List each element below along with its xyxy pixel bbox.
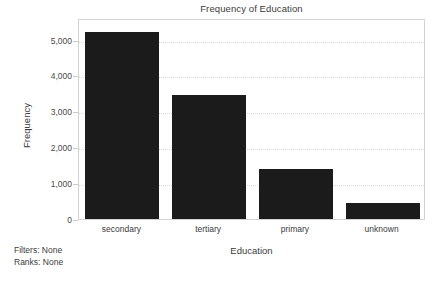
x-tick-label: secondary bbox=[102, 224, 141, 234]
footer-annotations: Filters: None Ranks: None bbox=[14, 244, 63, 268]
bars-layer bbox=[79, 20, 424, 219]
y-axis-title: Frequency bbox=[21, 86, 32, 166]
bar[interactable] bbox=[85, 32, 159, 219]
y-tick-label: 3,000 bbox=[30, 107, 72, 117]
x-axis-title: Education bbox=[78, 245, 425, 256]
x-tick-label: tertiary bbox=[195, 224, 221, 234]
chart-container: Frequency of Education Frequency 01,0002… bbox=[0, 0, 446, 281]
chart-title: Frequency of Education bbox=[78, 3, 425, 14]
y-tick-label: 0 bbox=[30, 215, 72, 225]
y-tick-mark bbox=[73, 220, 78, 221]
bar[interactable] bbox=[172, 95, 246, 219]
ranks-annotation: Ranks: None bbox=[14, 256, 63, 268]
y-tick-label: 1,000 bbox=[30, 179, 72, 189]
bar[interactable] bbox=[346, 203, 420, 220]
x-tick-label: primary bbox=[281, 224, 309, 234]
y-tick-label: 4,000 bbox=[30, 71, 72, 81]
y-tick-label: 5,000 bbox=[30, 36, 72, 46]
y-tick-label: 2,000 bbox=[30, 143, 72, 153]
plot-area bbox=[78, 19, 425, 220]
bar[interactable] bbox=[259, 169, 333, 219]
x-tick-label: unknown bbox=[365, 224, 399, 234]
filters-annotation: Filters: None bbox=[14, 244, 63, 256]
